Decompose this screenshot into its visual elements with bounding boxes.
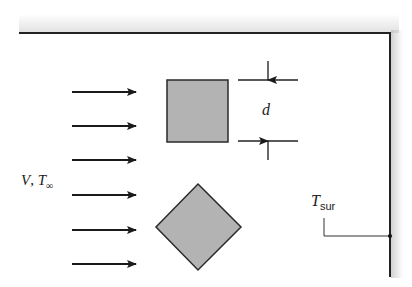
surroundings-leader xyxy=(324,218,392,238)
diagram-svg xyxy=(0,0,412,287)
temperature-symbol: T xyxy=(311,192,320,209)
diamond-cross-section xyxy=(156,184,241,270)
square-cross-section xyxy=(167,80,228,142)
sur-subscript: sur xyxy=(320,200,335,212)
label-separator: , xyxy=(30,172,38,188)
infinity-subscript: ∞ xyxy=(46,180,53,191)
diagram-canvas: V, T∞ d Tsur xyxy=(0,0,412,287)
surroundings-temperature-label: Tsur xyxy=(311,192,335,210)
freestream-label: V, T∞ xyxy=(21,172,53,189)
temperature-symbol: T xyxy=(38,172,46,188)
dimension-d-text: d xyxy=(262,101,270,118)
flow-arrows xyxy=(72,92,136,264)
dimension-label: d xyxy=(262,101,270,119)
velocity-symbol: V xyxy=(21,172,30,188)
